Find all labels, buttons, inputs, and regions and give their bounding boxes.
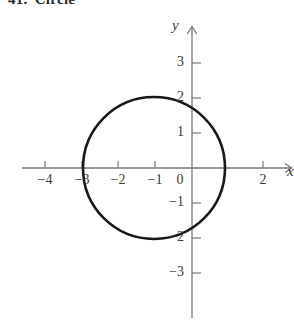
- y-tick-label--2: −2: [158, 229, 184, 245]
- coordinate-plot: [0, 0, 294, 320]
- x-tick-label--1: −1: [143, 172, 167, 188]
- x-tick-label--4: −4: [33, 172, 57, 188]
- x-axis-label: x: [287, 163, 294, 180]
- y-tick-label--3: −3: [158, 264, 184, 280]
- y-axis-label: y: [172, 17, 179, 34]
- y-tick-label-2: 2: [166, 89, 184, 105]
- x-tick-label--2: −2: [106, 172, 130, 188]
- figure-container: 41.Circle y x −4 −3 −2 −1 0 2 3 2: [0, 0, 294, 320]
- x-tick-label--3: −3: [70, 172, 94, 188]
- x-tick-label-2: 2: [255, 172, 271, 188]
- y-tick-label-3: 3: [166, 54, 184, 70]
- y-tick-label--1: −1: [158, 194, 184, 210]
- y-tick-label-1: 1: [166, 124, 184, 140]
- x-tick-label-0: 0: [172, 172, 188, 188]
